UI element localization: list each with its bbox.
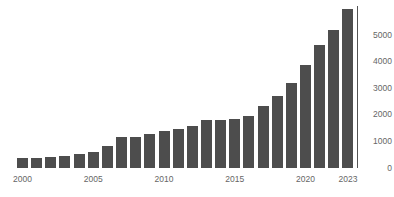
x-tick-label: 2015 <box>215 175 255 184</box>
bar <box>342 9 353 168</box>
y-tick-label: 2000 <box>358 110 392 119</box>
bar <box>173 129 184 168</box>
y-tick-label: 5000 <box>358 31 392 40</box>
bar <box>144 134 155 168</box>
bar <box>116 137 127 168</box>
bar <box>300 65 311 168</box>
bar <box>45 157 56 168</box>
y-tick-label: 0 <box>358 164 392 173</box>
x-tick-label: 2005 <box>73 175 113 184</box>
bar <box>243 116 254 168</box>
bar <box>17 158 28 168</box>
y-tick-label: 4000 <box>358 57 392 66</box>
bar <box>74 154 85 168</box>
bar-chart: 010002000300040005000 200020052010201520… <box>0 0 394 197</box>
bar <box>272 96 283 168</box>
bar <box>314 45 325 168</box>
bar <box>258 106 269 168</box>
plot-area <box>17 0 356 168</box>
bar <box>215 120 226 168</box>
y-tick-label: 3000 <box>358 84 392 93</box>
bar <box>130 137 141 168</box>
x-tick-label: 2010 <box>144 175 184 184</box>
bar <box>286 83 297 168</box>
bar <box>88 152 99 168</box>
x-tick-label: 2020 <box>286 175 326 184</box>
bar <box>328 30 339 168</box>
x-tick-label: 2000 <box>3 175 43 184</box>
bar <box>102 146 113 168</box>
bar <box>31 158 42 168</box>
bar <box>229 119 240 168</box>
y-tick-label: 1000 <box>358 137 392 146</box>
bar <box>159 131 170 168</box>
bar <box>187 126 198 168</box>
bar <box>201 120 212 168</box>
x-tick-label: 2023 <box>328 175 368 184</box>
bar <box>59 156 70 169</box>
